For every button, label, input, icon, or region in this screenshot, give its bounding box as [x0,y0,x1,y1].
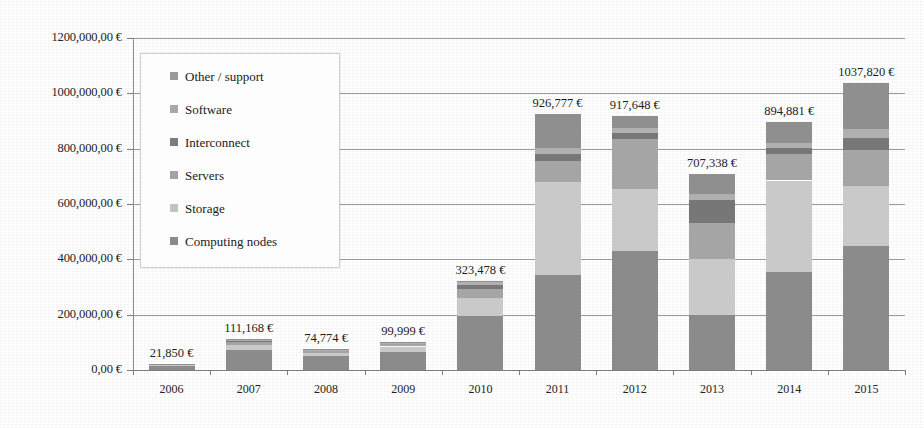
bar-segment[interactable] [689,200,735,224]
bar-segment[interactable] [149,364,195,365]
x-tick-mark [442,370,443,375]
bar-segment[interactable] [303,353,349,357]
x-tick-mark [133,370,134,375]
bar-segment[interactable] [380,343,426,344]
bar-segment[interactable] [457,289,503,297]
bar-segment[interactable] [380,343,426,344]
bar-segment[interactable] [535,182,581,275]
bar-segment[interactable] [843,138,889,150]
x-tick-label-2011: 2011 [519,382,596,397]
bar-segment[interactable] [380,352,426,370]
bar-stack[interactable] [766,122,812,370]
legend-swatch-icon [170,237,178,245]
bar-segment[interactable] [843,186,889,245]
bar-segment[interactable] [843,246,889,371]
bar-segment[interactable] [689,174,735,193]
bar-value-label: 917,648 € [585,98,685,113]
bar-segment[interactable] [689,259,735,314]
bar-segment[interactable] [766,148,812,154]
y-tick-label: 600,000,00 € [58,196,122,211]
x-tick-mark [673,370,674,375]
bar-segment[interactable] [766,122,812,142]
bar-segment[interactable] [149,365,195,366]
legend-item[interactable]: Servers [170,165,224,185]
bar-segment[interactable] [689,223,735,259]
y-tick-label: 1000,000,00 € [51,85,122,100]
bar-value-label: 323,478 € [430,263,530,278]
bar-segment[interactable] [226,340,272,341]
x-tick-mark [287,370,288,375]
bar-segment[interactable] [612,116,658,128]
bar-segment[interactable] [303,356,349,370]
bar-segment[interactable] [535,161,581,182]
x-tick-mark [828,370,829,375]
y-tick-label: 200,000,00 € [58,307,122,322]
bar-stack[interactable] [843,83,889,370]
legend-item[interactable]: Other / support [170,66,264,86]
bar-segment[interactable] [535,114,581,149]
bar-segment[interactable] [303,350,349,351]
bar-segment[interactable] [226,341,272,342]
legend-swatch-icon [170,204,178,212]
bar-segment[interactable] [380,347,426,352]
bar-segment[interactable] [766,272,812,370]
legend-label: Interconnect [185,136,250,149]
bar-segment[interactable] [689,194,735,200]
bar-segment[interactable] [843,83,889,129]
bar-segment[interactable] [226,345,272,350]
bar-segment[interactable] [535,275,581,370]
bar-segment[interactable] [226,342,272,344]
legend-item[interactable]: Storage [170,198,225,218]
legend-swatch-icon [170,171,178,179]
bar-segment[interactable] [766,143,812,148]
bar-segment[interactable] [766,154,812,180]
bar-segment[interactable] [457,281,503,283]
bar-stack[interactable] [689,174,735,370]
bar-stack[interactable] [535,114,581,370]
bar-segment[interactable] [612,128,658,133]
legend-item[interactable]: Computing nodes [170,231,277,251]
bar-segment[interactable] [226,350,272,370]
bar-segment[interactable] [380,344,426,346]
bar-segment[interactable] [612,139,658,189]
bar-segment[interactable] [457,285,503,289]
bar-segment[interactable] [689,315,735,370]
stacked-bar-chart: 1200,000,00 €1000,000,00 €800,000,00 €60… [0,0,924,428]
bar-value-label: 21,850 € [122,346,222,361]
bar-segment[interactable] [843,129,889,138]
bar-segment[interactable] [535,148,581,154]
x-tick-mark [519,370,520,375]
x-tick-label-2014: 2014 [751,382,828,397]
bar-segment[interactable] [612,133,658,139]
legend-label: Servers [185,169,224,182]
x-tick-label-2009: 2009 [365,382,442,397]
legend-item[interactable]: Software [170,99,232,119]
bar-stack[interactable] [457,281,503,370]
bar-stack[interactable] [226,339,272,370]
bar-segment[interactable] [303,351,349,353]
bar-stack[interactable] [303,349,349,370]
bar-stack[interactable] [380,342,426,370]
bar-value-label: 99,999 € [353,324,453,339]
x-tick-label-2007: 2007 [210,382,287,397]
bar-value-label: 707,338 € [662,156,762,171]
bar-stack[interactable] [612,116,658,370]
bar-segment[interactable] [457,298,503,316]
legend-item[interactable]: Interconnect [170,132,250,152]
legend-label: Software [185,103,232,116]
x-tick-label-2012: 2012 [596,382,673,397]
x-tick-label-2006: 2006 [133,382,210,397]
bar-segment[interactable] [457,316,503,370]
y-tick-label: 0,00 € [91,362,122,377]
bar-segment[interactable] [535,154,581,161]
bar-segment[interactable] [843,150,889,186]
chart-legend[interactable]: Other / supportSoftwareInterconnectServe… [140,53,340,268]
x-tick-mark [210,370,211,375]
bar-segment[interactable] [226,339,272,340]
bar-segment[interactable] [612,189,658,251]
bar-segment[interactable] [457,282,503,284]
y-tick-label: 400,000,00 € [58,251,122,266]
legend-label: Computing nodes [185,235,277,248]
bar-segment[interactable] [612,251,658,370]
bar-segment[interactable] [766,181,812,272]
